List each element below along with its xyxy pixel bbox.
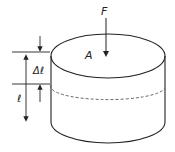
delta-length-label: Δℓ — [32, 65, 44, 76]
cylinder-bottom-edge — [51, 122, 165, 143]
force-label: F — [101, 5, 108, 18]
original-height-dashed-line — [51, 85, 165, 100]
cylinder-top-face — [51, 34, 165, 78]
area-label: A — [84, 49, 93, 62]
cylinder-diagram: F A Δℓ ℓ — [0, 0, 175, 152]
cylinder — [51, 34, 165, 143]
length-label: ℓ — [17, 93, 21, 104]
dimension-lines — [12, 36, 50, 119]
